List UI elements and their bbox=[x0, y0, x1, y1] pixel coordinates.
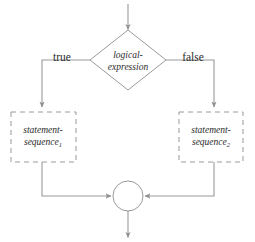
statement-sequence-2-box bbox=[179, 112, 243, 162]
false-branch-line bbox=[166, 60, 214, 107]
decision-diamond bbox=[90, 30, 166, 90]
statement-sequence-1-box bbox=[11, 112, 76, 162]
merge-line-right bbox=[145, 162, 214, 196]
merge-node bbox=[113, 181, 143, 211]
true-branch-line bbox=[42, 60, 90, 107]
merge-line-left bbox=[42, 162, 111, 196]
if-else-flowchart: logical- expression true false statement… bbox=[0, 0, 255, 242]
flowchart-canvas bbox=[0, 0, 255, 242]
